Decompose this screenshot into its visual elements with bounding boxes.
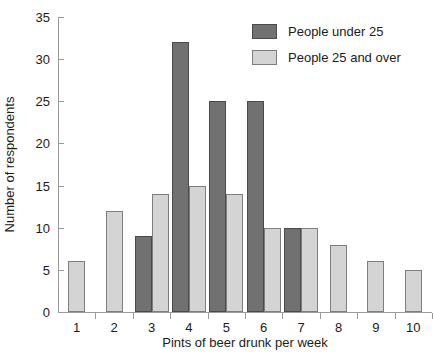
bar-25-and-over bbox=[330, 245, 347, 312]
x-tick-label: 9 bbox=[372, 321, 379, 334]
y-tick-mark bbox=[58, 312, 64, 313]
x-tick-mark bbox=[395, 313, 396, 319]
x-tick-mark bbox=[245, 313, 246, 319]
x-tick-label: 8 bbox=[335, 321, 342, 334]
bar-25-and-over bbox=[301, 228, 318, 312]
x-tick-label: 2 bbox=[110, 321, 117, 334]
x-tick-label: 1 bbox=[73, 321, 80, 334]
x-tick-mark bbox=[357, 313, 358, 319]
bar-25-and-over bbox=[226, 194, 243, 312]
bar-under-25 bbox=[172, 42, 189, 312]
y-axis-title-text: Number of respondents bbox=[4, 97, 17, 233]
bar-25-and-over bbox=[264, 228, 281, 312]
x-tick-mark bbox=[170, 313, 171, 319]
legend-label-25-and-over: People 25 and over bbox=[288, 51, 401, 64]
x-tick-label: 4 bbox=[185, 321, 192, 334]
bar-25-and-over bbox=[106, 211, 123, 312]
bar-chart: 05101520253035 12345678910 Number of res… bbox=[0, 0, 434, 352]
x-tick-label: 6 bbox=[260, 321, 267, 334]
chart-legend: People under 25 People 25 and over bbox=[252, 18, 401, 70]
legend-item[interactable]: People 25 and over bbox=[252, 44, 401, 70]
x-tick-mark bbox=[282, 313, 283, 319]
x-tick-label: 5 bbox=[223, 321, 230, 334]
x-tick-mark bbox=[432, 313, 433, 319]
x-axis-title: Pints of beer drunk per week bbox=[58, 336, 432, 349]
x-tick-label: 7 bbox=[297, 321, 304, 334]
x-tick-label: 3 bbox=[148, 321, 155, 334]
bar-25-and-over bbox=[367, 261, 384, 312]
legend-swatch-25-and-over bbox=[252, 50, 277, 65]
x-tick-mark bbox=[208, 313, 209, 319]
bar-under-25 bbox=[209, 101, 226, 312]
bar-under-25 bbox=[247, 101, 264, 312]
bar-25-and-over bbox=[68, 261, 85, 312]
bar-25-and-over bbox=[152, 194, 169, 312]
bar-under-25 bbox=[135, 236, 152, 312]
legend-item[interactable]: People under 25 bbox=[252, 18, 401, 44]
x-tick-mark bbox=[133, 313, 134, 319]
x-tick-label: 10 bbox=[406, 321, 420, 334]
bar-25-and-over bbox=[405, 270, 422, 312]
y-axis-title: Number of respondents bbox=[2, 17, 18, 312]
bar-25-and-over bbox=[189, 186, 206, 312]
bar-under-25 bbox=[284, 228, 301, 312]
x-tick-mark bbox=[320, 313, 321, 319]
legend-swatch-under-25 bbox=[252, 24, 277, 39]
x-tick-mark bbox=[95, 313, 96, 319]
legend-label-under-25: People under 25 bbox=[288, 25, 383, 38]
